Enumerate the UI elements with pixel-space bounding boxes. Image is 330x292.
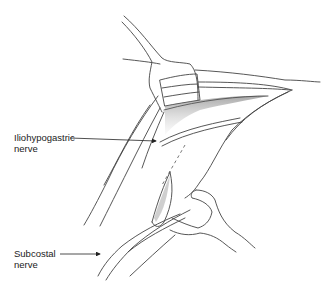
subcostal-nerve-label: Subcostal nerve xyxy=(14,248,56,270)
iliohypogastric-nerve-label: Iliohypogastric nerve xyxy=(14,132,75,154)
shaded-cavity xyxy=(165,96,268,135)
anatomical-illustration: Iliohypogastric nerve Subcostal nerve xyxy=(0,0,330,292)
